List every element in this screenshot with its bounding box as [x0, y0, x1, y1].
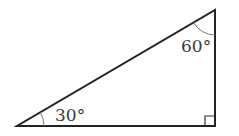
triangle-diagram: 30° 60°	[0, 0, 239, 136]
triangle	[17, 10, 215, 126]
angle-arc-60	[194, 23, 216, 35]
right-angle-marker	[205, 116, 215, 126]
angle-label-60: 60°	[181, 36, 211, 56]
angle-label-30: 30°	[55, 105, 85, 125]
angle-arc-30	[40, 112, 44, 126]
